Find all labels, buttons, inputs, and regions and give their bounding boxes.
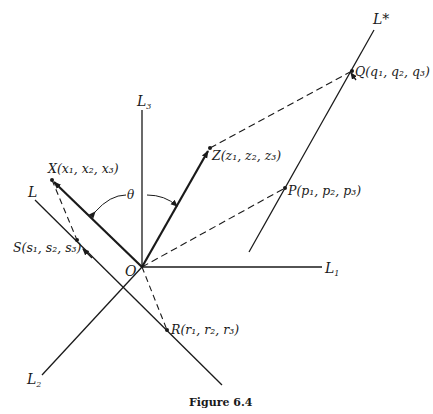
label-point-q: Q(q₁, q₂, q₃) bbox=[355, 64, 430, 79]
label-origin: O bbox=[125, 263, 137, 279]
angle-arc-theta bbox=[95, 195, 126, 212]
label-point-x: X(x₁, x₂, x₃) bbox=[47, 161, 119, 176]
label-point-p: P(p₁, p₂, p₃) bbox=[287, 183, 361, 198]
label-l1: L1 bbox=[324, 260, 339, 278]
point-x bbox=[50, 178, 54, 182]
dashed-x-s bbox=[52, 180, 77, 240]
label-point-z: Z(z₁, z₂, z₃) bbox=[211, 148, 281, 163]
label-l2: L2 bbox=[26, 371, 41, 389]
label-point-s: S(s₁, s₂, s₃) bbox=[13, 240, 82, 255]
point-r bbox=[165, 328, 169, 332]
label-line-l: L bbox=[27, 184, 37, 200]
label-point-r: R(r₁, r₂, r₃) bbox=[170, 322, 239, 337]
point-p bbox=[283, 186, 287, 190]
vector-oz bbox=[142, 151, 208, 267]
figure-canvas: L3 L1 L2 L L* O θ X(x₁, x₂, x₃) Z(z₁, z₂… bbox=[0, 0, 433, 414]
label-l3: L3 bbox=[136, 93, 151, 111]
label-theta: θ bbox=[127, 188, 135, 202]
angle-arc-theta-right bbox=[147, 195, 177, 206]
label-line-l-star: L* bbox=[372, 11, 389, 27]
dashed-o-r bbox=[142, 267, 167, 330]
arrow-on-line-l bbox=[83, 249, 92, 258]
axis-l2 bbox=[42, 267, 142, 375]
figure-caption: Figure 6.4 bbox=[189, 396, 253, 409]
point-q bbox=[350, 69, 354, 73]
dashed-z-q bbox=[210, 71, 352, 148]
line-l bbox=[35, 200, 222, 385]
